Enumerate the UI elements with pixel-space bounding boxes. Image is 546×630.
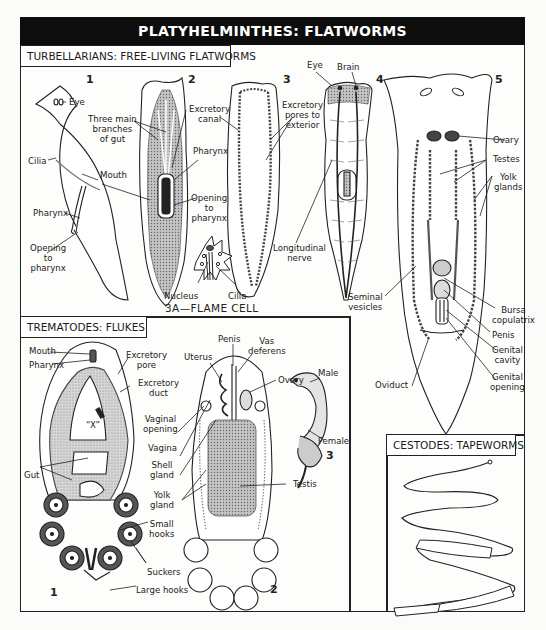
- label-tr3-male: Male: [318, 368, 338, 378]
- label-tr2-ovary: Ovary: [278, 375, 304, 385]
- label-t5-testes: Testes: [493, 154, 520, 164]
- label-t1-opening-to-pharynx: Opening to pharynx: [30, 243, 66, 273]
- label-t2-opening-to-pharynx: Opening to pharynx: [191, 193, 227, 223]
- label-t1-eye: Eye: [69, 97, 85, 107]
- label-t5-bursa-copulatrix: Bursa copulatrix: [492, 305, 535, 325]
- cestode-tapeworm: [394, 460, 515, 616]
- trematode-fig1: [40, 342, 142, 580]
- label-tr1-small-hooks: Small hooks: [149, 519, 174, 539]
- label-tr2-uterus: Uterus: [184, 352, 212, 362]
- label-t5-yolk-glands: Yolk glands: [494, 172, 523, 192]
- illustration-canvas: [0, 0, 546, 630]
- label-t4-brain: Brain: [337, 62, 360, 72]
- label-tr1-mouth: Mouth: [29, 346, 56, 356]
- label-t5-genital-cavity: Genital cavity: [492, 345, 523, 365]
- turbellarian-fig4-number: 4: [376, 73, 384, 86]
- label-t4-longitudinal-nerve: Longitudinal nerve: [273, 243, 326, 263]
- label-tr1-excretory-pore: Excretory pore: [126, 350, 167, 370]
- flame-cell-3a: [194, 236, 232, 280]
- label-t3-excretory-canal: Excretory canal: [189, 104, 230, 124]
- label-t5-genital-opening: Genital opening: [490, 372, 525, 392]
- trematode-fig2: [184, 356, 278, 610]
- label-t1-cilia: Cilia: [28, 156, 46, 166]
- label-tr2-shell-gland: Shell gland: [150, 460, 174, 480]
- turbellarian-fig3-excretory: [228, 82, 280, 296]
- label-tr3-female: Female: [318, 436, 349, 446]
- label-tr1-large-hooks: Large hooks: [136, 585, 188, 595]
- turbellarian-fig3-number: 3: [283, 73, 291, 86]
- turbellarian-fig1-number: 1: [86, 73, 94, 86]
- label-tr1-x-mark: “X”: [86, 420, 100, 430]
- label-tr2-testis: Testis: [293, 479, 317, 489]
- label-tr2-vagina: Vagina: [148, 443, 177, 453]
- label-t5-oviduct: Oviduct: [375, 380, 408, 390]
- label-t2-three-main-branches: Three main branches of gut: [88, 114, 137, 144]
- turbellarian-fig2-number: 2: [188, 73, 196, 86]
- trematode-fig2-number: 2: [270, 583, 278, 596]
- label-tr2-vaginal-opening: Vaginal opening: [143, 414, 178, 434]
- label-tr2-penis: Penis: [218, 334, 240, 344]
- label-t3-excretory-pores: Excretory pores to exterior: [282, 100, 323, 130]
- trematode-fig1-number: 1: [50, 586, 58, 599]
- label-tr2-yolk-gland: Yolk gland: [150, 490, 174, 510]
- turbellarian-fig4-nervous: [324, 82, 372, 300]
- caption-flame-cell: 3A—FLAME CELL: [165, 302, 259, 314]
- label-t1-mouth: Mouth: [100, 170, 127, 180]
- turbellarian-fig5-number: 5: [495, 73, 503, 86]
- label-tr1-gut: Gut: [24, 470, 39, 480]
- label-tr1-suckers: Suckers: [147, 567, 181, 577]
- label-flamecell-nucleus: Nucleus: [164, 291, 198, 301]
- label-tr2-vas-deferens: Vas deferens: [248, 336, 286, 356]
- label-t5-penis: Penis: [492, 330, 514, 340]
- turbellarian-fig2-digestive: [140, 78, 188, 306]
- label-t4-eye: Eye: [307, 60, 323, 70]
- label-flamecell-cilia: Cilia: [228, 291, 246, 301]
- trematode-fig3-number: 3: [326, 449, 334, 462]
- label-tr1-pharynx: Pharynx: [29, 360, 64, 370]
- label-t5-ovary: Ovary: [493, 135, 519, 145]
- label-t5-seminal-vesicles: Seminal vesicles: [348, 292, 383, 312]
- label-t1-pharynx: Pharynx: [33, 208, 68, 218]
- label-tr1-excretory-duct: Excretory duct: [138, 378, 179, 398]
- label-t2-pharynx: Pharynx: [193, 146, 228, 156]
